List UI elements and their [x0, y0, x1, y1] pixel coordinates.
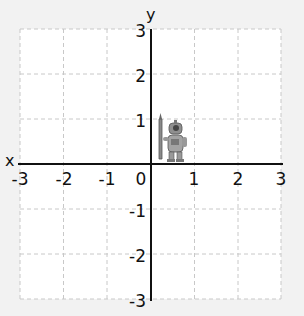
svg-text:3: 3: [135, 21, 146, 41]
x-axis-label: x: [5, 151, 14, 170]
svg-text:2: 2: [233, 169, 244, 189]
svg-text:3: 3: [276, 169, 287, 189]
svg-text:0: 0: [136, 169, 147, 189]
y-axis-label: y: [146, 5, 155, 24]
svg-text:-1: -1: [99, 169, 116, 189]
svg-text:1: 1: [135, 111, 146, 131]
svg-text:-3: -3: [12, 169, 29, 189]
svg-text:-2: -2: [129, 246, 146, 266]
svg-text:-2: -2: [56, 169, 73, 189]
svg-text:-3: -3: [129, 291, 146, 311]
svg-text:-1: -1: [129, 201, 146, 221]
svg-text:1: 1: [189, 169, 200, 189]
coordinate-plane: x y -3 -2 -1 0 1 2 3 3 2 1 -1 -2 -3: [0, 0, 304, 316]
svg-text:2: 2: [135, 66, 146, 86]
